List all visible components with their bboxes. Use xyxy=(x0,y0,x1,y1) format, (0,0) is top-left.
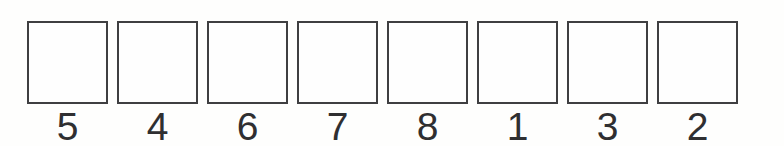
box-label: 6 xyxy=(237,108,259,146)
box-cell: 8 xyxy=(387,21,468,146)
box-label: 5 xyxy=(57,108,79,146)
box-label: 8 xyxy=(417,108,439,146)
empty-box[interactable] xyxy=(207,21,288,104)
empty-box[interactable] xyxy=(27,21,108,104)
empty-box[interactable] xyxy=(297,21,378,104)
box-sequence-figure: 5 4 6 7 8 1 3 2 xyxy=(0,0,784,146)
box-label: 1 xyxy=(507,108,529,146)
box-label: 4 xyxy=(147,108,169,146)
empty-box[interactable] xyxy=(117,21,198,104)
box-label: 3 xyxy=(597,108,619,146)
box-cell: 2 xyxy=(657,21,738,146)
box-cell: 6 xyxy=(207,21,288,146)
empty-box[interactable] xyxy=(477,21,558,104)
box-row: 5 4 6 7 8 1 3 2 xyxy=(27,21,738,146)
empty-box[interactable] xyxy=(567,21,648,104)
box-cell: 7 xyxy=(297,21,378,146)
empty-box[interactable] xyxy=(387,21,468,104)
box-label: 2 xyxy=(687,108,709,146)
box-cell: 1 xyxy=(477,21,558,146)
box-cell: 4 xyxy=(117,21,198,146)
box-label: 7 xyxy=(327,108,349,146)
box-cell: 5 xyxy=(27,21,108,146)
box-cell: 3 xyxy=(567,21,648,146)
empty-box[interactable] xyxy=(657,21,738,104)
